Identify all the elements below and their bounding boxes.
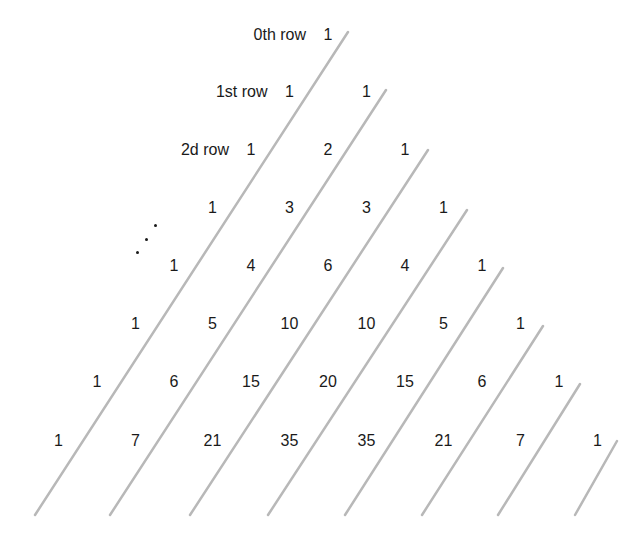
triangle-entry: 1 (439, 200, 448, 216)
triangle-entry: 3 (362, 200, 371, 216)
triangle-entry: 15 (242, 374, 260, 390)
diagonal-lines (0, 0, 643, 553)
triangle-entry: 15 (396, 374, 414, 390)
triangle-entry: 21 (204, 433, 222, 449)
triangle-entry: 1 (478, 258, 487, 274)
triangle-entry: 1 (131, 316, 140, 332)
triangle-entry: 1 (208, 200, 217, 216)
pascal-triangle-diagram: 0th row1st row2d row 1111211331146411510… (0, 0, 643, 553)
triangle-entry: 1 (93, 374, 102, 390)
triangle-entry: 1 (593, 433, 602, 449)
triangle-entry: 5 (439, 316, 448, 332)
ellipsis-dot (136, 251, 139, 254)
diagonal-line (422, 326, 543, 515)
row-label: 2d row (181, 142, 229, 158)
triangle-entry: 35 (358, 433, 376, 449)
triangle-entry: 2 (324, 142, 333, 158)
triangle-entry: 10 (281, 316, 299, 332)
diagonal-line (35, 32, 348, 515)
diagonal-line (345, 268, 503, 515)
triangle-entry: 21 (435, 433, 453, 449)
triangle-entry: 10 (358, 316, 376, 332)
triangle-entry: 7 (516, 433, 525, 449)
triangle-entry: 7 (131, 433, 140, 449)
triangle-entry: 4 (401, 258, 410, 274)
triangle-entry: 1 (362, 84, 371, 100)
diagonal-line (190, 150, 428, 515)
triangle-entry: 6 (478, 374, 487, 390)
triangle-entry: 1 (516, 316, 525, 332)
triangle-entry: 1 (54, 433, 63, 449)
triangle-entry: 1 (247, 142, 256, 158)
row-label: 0th row (254, 27, 306, 43)
triangle-entry: 1 (285, 84, 294, 100)
triangle-entry: 1 (401, 142, 410, 158)
row-label: 1st row (216, 84, 268, 100)
triangle-entry: 1 (324, 27, 333, 43)
diagonal-line (268, 210, 467, 515)
triangle-entry: 5 (208, 316, 217, 332)
triangle-entry: 6 (170, 374, 179, 390)
ellipsis-dot (154, 224, 157, 227)
triangle-entry: 6 (324, 258, 333, 274)
diagonal-line (575, 441, 617, 515)
triangle-entry: 4 (247, 258, 256, 274)
triangle-entry: 3 (285, 200, 294, 216)
triangle-entry: 35 (281, 433, 299, 449)
triangle-entry: 20 (319, 374, 337, 390)
triangle-entry: 1 (170, 258, 179, 274)
ellipsis-dot (145, 238, 148, 241)
diagonal-line (498, 384, 580, 515)
triangle-entry: 1 (555, 374, 564, 390)
